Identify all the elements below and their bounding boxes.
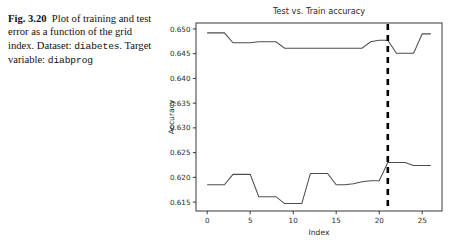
caption-dataset-name: diabetes	[74, 41, 119, 52]
y-tick-label: 0.625	[170, 148, 191, 157]
y-tick-label: 0.620	[170, 173, 191, 182]
y-tick-label: 0.615	[170, 198, 191, 207]
x-tick-label: 5	[248, 216, 253, 225]
figure-number: Fig. 3.20	[8, 13, 47, 24]
x-axis-ticks: 0510152025	[205, 211, 427, 225]
y-tick-label: 0.650	[170, 25, 191, 34]
series-line	[207, 33, 431, 53]
x-tick-label: 15	[332, 216, 341, 225]
y-tick-label: 0.635	[170, 99, 191, 108]
x-tick-label: 10	[289, 216, 299, 225]
y-tick-label: 0.645	[170, 49, 191, 58]
accuracy-line-chart: Test vs. Train accuracy Accuracy Index 0…	[160, 0, 451, 244]
x-tick-label: 25	[418, 216, 427, 225]
series-line	[207, 163, 431, 204]
y-tick-label: 0.640	[170, 74, 191, 83]
x-tick-label: 20	[375, 216, 385, 225]
caption-target-variable: diabprog	[48, 55, 93, 66]
figure-caption: Fig. 3.20 Plot of training and test erro…	[8, 12, 160, 68]
data-series-group	[207, 33, 431, 204]
chart-title: Test vs. Train accuracy	[272, 6, 365, 16]
plot-frame	[196, 23, 442, 211]
figure-container: Fig. 3.20 Plot of training and test erro…	[0, 0, 451, 244]
y-tick-label: 0.630	[170, 123, 191, 132]
x-tick-label: 0	[205, 216, 210, 225]
chart-panel: Test vs. Train accuracy Accuracy Index 0…	[160, 0, 451, 244]
x-axis-label: Index	[309, 228, 330, 237]
